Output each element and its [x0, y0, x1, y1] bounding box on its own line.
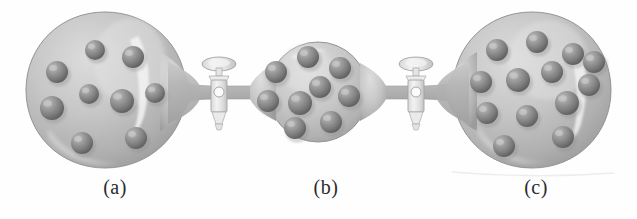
valve-bore-right: [411, 87, 421, 97]
flask-a: [26, 12, 200, 168]
valve-bore-left: [214, 87, 224, 97]
scan-artifact-line: [452, 172, 614, 176]
apparatus-diagram: [0, 0, 637, 219]
figure-container: (a) (b) (c): [0, 0, 637, 219]
